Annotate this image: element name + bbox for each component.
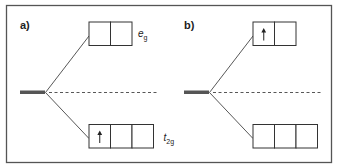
orbital-box bbox=[111, 22, 133, 46]
orbital-box bbox=[275, 125, 297, 149]
t2g-orbital-set bbox=[253, 125, 318, 149]
t2g-orbital-set bbox=[89, 125, 154, 149]
orbital-box bbox=[253, 125, 275, 149]
panel-label: b) bbox=[184, 19, 195, 31]
orbital-box bbox=[111, 125, 133, 149]
orbital-box bbox=[296, 125, 318, 149]
crystal-field-diagram: a)egt2gb) bbox=[0, 0, 338, 168]
panel-label: a) bbox=[20, 19, 30, 31]
orbital-box bbox=[275, 22, 297, 46]
panel-a: a)egt2g bbox=[20, 19, 174, 148]
connector-line-lower bbox=[46, 93, 90, 139]
degenerate-level-bar bbox=[184, 91, 209, 95]
orbital-box bbox=[89, 22, 111, 46]
connector-line-upper bbox=[210, 36, 254, 93]
connector-line-lower bbox=[210, 93, 254, 139]
orbital-box bbox=[132, 125, 154, 149]
panel-b: b) bbox=[184, 19, 321, 148]
eg-orbital-set bbox=[253, 22, 296, 46]
connector-line-upper bbox=[46, 36, 90, 93]
eg-orbital-set bbox=[89, 22, 132, 46]
t2g-label: t2g bbox=[164, 132, 175, 146]
eg-label: eg bbox=[138, 28, 148, 42]
degenerate-level-bar bbox=[20, 91, 45, 95]
